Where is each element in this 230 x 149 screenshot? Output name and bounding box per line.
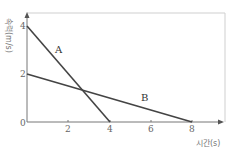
chart-frame bbox=[27, 13, 225, 122]
x-tick-2: 2 bbox=[65, 124, 71, 134]
series-b-label: B bbox=[141, 92, 148, 103]
x-tick-8: 8 bbox=[189, 124, 195, 134]
y-tick-4: 4 bbox=[20, 21, 26, 31]
x-tick-6: 6 bbox=[148, 124, 154, 134]
x-tick-0: 0 bbox=[20, 118, 26, 128]
x-axis-arrow-icon bbox=[218, 120, 224, 125]
series-b-line bbox=[27, 74, 192, 122]
series-a-label: A bbox=[54, 44, 63, 55]
y-tick-2: 2 bbox=[20, 69, 26, 79]
series-a-line bbox=[27, 26, 110, 122]
x-tick-4: 4 bbox=[107, 124, 113, 134]
chart: A B 4 2 0 2 4 6 8 시간(s) 속력(m/s) bbox=[0, 0, 230, 149]
x-axis-label: 시간(s) bbox=[196, 138, 220, 148]
y-axis-label: 속력(m/s) bbox=[4, 18, 14, 53]
